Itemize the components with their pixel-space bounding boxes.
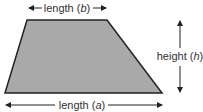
- label-length-b: length (b): [44, 2, 91, 14]
- label-length-a: length (a): [59, 99, 106, 111]
- trapezoid-diagram: length (b) length (a) height (h): [0, 0, 203, 112]
- trapezoid-shape: [5, 20, 162, 93]
- label-height-h: height (h): [157, 50, 203, 62]
